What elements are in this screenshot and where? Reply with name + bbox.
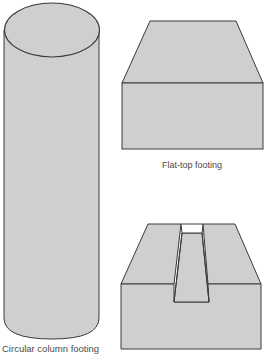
keyed-groove-floor	[174, 233, 209, 302]
keyed-right-sloped-face	[203, 224, 261, 284]
flat-top-footing	[122, 21, 263, 149]
circular-column-footing	[4, 3, 100, 339]
cylinder-top-ellipse	[5, 3, 100, 57]
keyed-groove-back-wall	[181, 224, 203, 233]
flat-top-front-face	[122, 83, 263, 149]
flat-top-footing-label: Flat-top footing	[162, 161, 222, 170]
keyed-footing	[121, 224, 261, 349]
footings-diagram	[0, 0, 274, 356]
circular-column-footing-label: Circular column footing	[2, 344, 99, 354]
cylinder-body	[4, 30, 99, 339]
flat-top-sloped-face	[122, 21, 263, 83]
keyed-left-sloped-face	[121, 224, 181, 284]
